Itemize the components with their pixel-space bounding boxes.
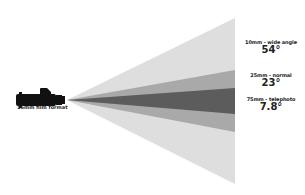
lens-label-telephoto: 75mm - telephoto 7.8° xyxy=(238,96,304,112)
lens-angle-telephoto: 7.8° xyxy=(238,102,304,112)
lens-label-normal: 25mm - normal 23° xyxy=(238,72,304,88)
lens-label-wide: 10mm - wide angle 54° xyxy=(238,39,304,55)
camera-label: 16mm film format xyxy=(17,104,68,110)
lens-angle-wide: 54° xyxy=(238,45,304,55)
lens-angle-normal: 23° xyxy=(238,78,304,88)
